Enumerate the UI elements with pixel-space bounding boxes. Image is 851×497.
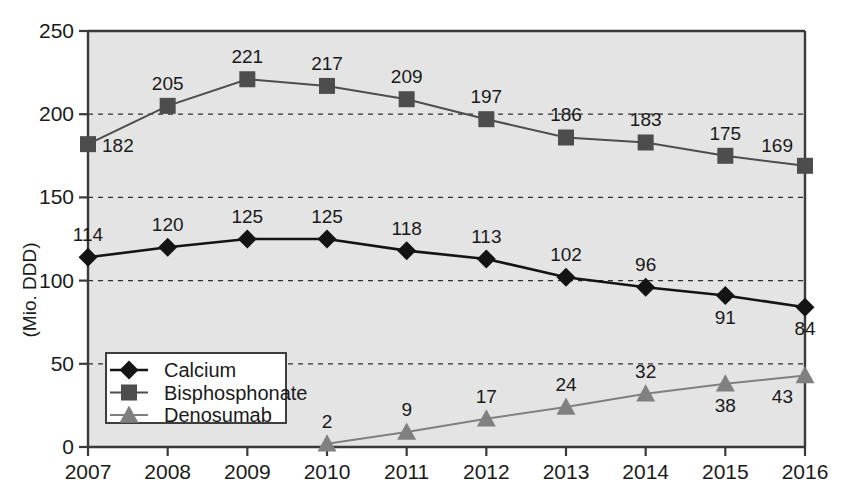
legend-marker-square-icon xyxy=(121,385,137,401)
x-tick-label-2014: 2014 xyxy=(622,460,669,483)
data-label-bisphosphonate-2012: 197 xyxy=(470,86,502,107)
data-label-calcium-2013: 102 xyxy=(550,244,582,265)
data-label-bisphosphonate-2016: 169 xyxy=(761,135,793,156)
marker-bisphosphonate-2013 xyxy=(558,129,574,145)
y-tick-label-100: 100 xyxy=(39,269,74,292)
x-tick-label-2011: 2011 xyxy=(384,460,429,483)
marker-bisphosphonate-2007 xyxy=(80,136,96,152)
data-label-calcium-2011: 118 xyxy=(392,218,422,239)
legend-label-calcium: Calcium xyxy=(164,359,236,381)
data-label-calcium-2014: 96 xyxy=(635,254,656,275)
marker-bisphosphonate-2010 xyxy=(319,78,335,94)
data-label-calcium-2009: 125 xyxy=(231,206,263,227)
chart-legend: CalciumBisphosphonateDenosumab xyxy=(106,353,307,426)
y-tick-label-50: 50 xyxy=(51,352,74,375)
data-label-bisphosphonate-2007: 182 xyxy=(102,135,134,156)
data-label-bisphosphonate-2009: 221 xyxy=(231,46,263,67)
x-tick-label-2012: 2012 xyxy=(463,460,510,483)
data-label-denosumab-2010: 2 xyxy=(322,411,333,432)
y-tick-label-150: 150 xyxy=(39,185,74,208)
x-tick-label-2015: 2015 xyxy=(702,460,749,483)
marker-bisphosphonate-2011 xyxy=(399,91,415,107)
marker-bisphosphonate-2009 xyxy=(239,71,255,87)
y-tick-label-250: 250 xyxy=(39,19,74,42)
x-axis-ticks: 2007200820092010201120122013201420152016 xyxy=(65,447,829,483)
data-label-bisphosphonate-2011: 209 xyxy=(391,66,423,87)
chart-container: 050100150200250 200720082009201020112012… xyxy=(0,0,851,497)
data-label-bisphosphonate-2008: 205 xyxy=(152,73,184,94)
y-tick-label-200: 200 xyxy=(39,102,74,125)
x-tick-label-2009: 2009 xyxy=(224,460,271,483)
data-label-denosumab-2016: 43 xyxy=(772,386,793,407)
x-tick-label-2016: 2016 xyxy=(782,460,829,483)
x-tick-label-2007: 2007 xyxy=(65,460,112,483)
data-label-bisphosphonate-2010: 217 xyxy=(311,53,343,74)
data-label-denosumab-2011: 9 xyxy=(401,399,412,420)
data-label-calcium-2012: 113 xyxy=(471,226,501,247)
line-chart: 050100150200250 200720082009201020112012… xyxy=(0,0,851,497)
marker-bisphosphonate-2016 xyxy=(797,158,813,174)
marker-bisphosphonate-2008 xyxy=(160,98,176,114)
data-label-calcium-2016: 84 xyxy=(794,318,816,339)
x-tick-label-2008: 2008 xyxy=(144,460,191,483)
data-label-calcium-2008: 120 xyxy=(152,214,184,235)
data-label-calcium-2010: 125 xyxy=(311,206,343,227)
legend-label-denosumab: Denosumab xyxy=(164,404,272,426)
y-axis-title: (Mio. DDD) xyxy=(19,243,40,338)
x-tick-label-2010: 2010 xyxy=(304,460,351,483)
data-label-denosumab-2012: 17 xyxy=(476,386,497,407)
data-label-bisphosphonate-2013: 186 xyxy=(550,104,582,125)
data-label-bisphosphonate-2015: 175 xyxy=(709,123,741,144)
marker-bisphosphonate-2012 xyxy=(478,111,494,127)
data-label-bisphosphonate-2014: 183 xyxy=(630,109,662,130)
data-label-denosumab-2014: 32 xyxy=(635,361,656,382)
marker-bisphosphonate-2014 xyxy=(638,134,654,150)
data-label-denosumab-2015: 38 xyxy=(715,395,736,416)
data-label-calcium-2015: 91 xyxy=(715,307,736,328)
y-tick-label-0: 0 xyxy=(62,435,74,458)
data-label-denosumab-2013: 24 xyxy=(555,374,577,395)
marker-bisphosphonate-2015 xyxy=(717,148,733,164)
data-label-calcium-2007: 114 xyxy=(73,224,104,245)
x-tick-label-2013: 2013 xyxy=(543,460,590,483)
legend-label-bisphosphonate: Bisphosphonate xyxy=(164,382,307,404)
legend-item-calcium[interactable]: Calcium xyxy=(110,359,236,381)
